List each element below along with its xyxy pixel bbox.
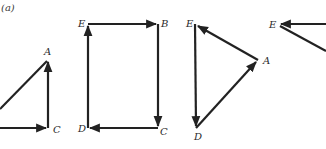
label-d: D <box>193 131 202 142</box>
vector-e-to-lower-right <box>280 26 326 51</box>
vector-diagram-figure: (a) A C E B C D E A D E <box>0 0 326 149</box>
label-b: B <box>160 18 168 29</box>
label-a: A <box>262 55 270 66</box>
label-c: C <box>160 126 168 137</box>
vector-a-to-e <box>198 26 258 60</box>
label-d: D <box>77 123 86 134</box>
label-e: E <box>77 18 86 29</box>
label-e: E <box>268 19 277 30</box>
vector-d-to-a <box>196 62 256 128</box>
triangle-ac: A C <box>0 46 61 135</box>
label-a: A <box>43 46 51 57</box>
triangle-ead: E A D <box>185 18 270 142</box>
partial-triangle-e: E <box>268 19 326 51</box>
vector-e-to-d <box>195 24 196 126</box>
panel-label: (a) <box>1 2 15 13</box>
vector-a-to-left <box>0 61 47 109</box>
label-c: C <box>53 124 61 135</box>
rectangle-ebcd: E B C D <box>77 18 168 137</box>
label-e: E <box>185 18 194 29</box>
